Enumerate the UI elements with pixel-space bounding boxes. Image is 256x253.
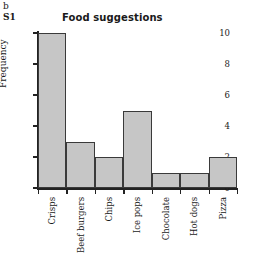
x-label-group: CrispsBeef burgersChipsIce popsChocolate… (38, 195, 237, 251)
bar-cell (123, 33, 151, 188)
y-axis-title: Frequency (0, 39, 8, 88)
bar[interactable] (95, 157, 123, 188)
y-tick-mark (33, 156, 37, 158)
x-tick-mark (123, 189, 124, 194)
x-tick-mark (95, 189, 96, 194)
x-tick-label: Chips (105, 197, 114, 222)
bar[interactable] (38, 33, 66, 188)
bar-cell (180, 33, 208, 188)
x-label-cell: Hot dogs (180, 195, 208, 251)
bar[interactable] (123, 111, 151, 189)
bar-cell (95, 33, 123, 188)
x-tick-label: Crisps (48, 197, 57, 224)
x-tick-label: Pizza (218, 197, 227, 219)
x-label-cell: Ice pops (123, 195, 151, 251)
chart-title: Food suggestions (62, 12, 163, 24)
x-label-cell: Crisps (38, 195, 66, 251)
y-tick-mark (33, 32, 37, 34)
bar-cell (38, 33, 66, 188)
bar[interactable] (66, 142, 94, 189)
panel-letter: b (3, 1, 9, 11)
x-tick-label: Beef burgers (76, 197, 85, 253)
x-label-cell: Chips (95, 195, 123, 251)
x-tick-mark (180, 189, 181, 194)
x-label-cell: Chocolate (152, 195, 180, 251)
y-tick-mark (33, 63, 37, 65)
x-tick-mark (38, 189, 39, 194)
bar[interactable] (180, 173, 208, 189)
y-tick-mark (33, 125, 37, 127)
x-tick-label: Chocolate (161, 197, 170, 240)
x-label-cell: Pizza (209, 195, 237, 251)
x-tick-label: Hot dogs (190, 197, 199, 236)
y-tick-mark (33, 187, 37, 189)
x-tick-mark (152, 189, 153, 194)
x-tick-group (38, 189, 237, 194)
bar-cell (66, 33, 94, 188)
x-tick-mark (209, 189, 210, 194)
x-tick-mark (66, 189, 67, 194)
bar-cell (152, 33, 180, 188)
bar[interactable] (152, 173, 180, 189)
y-tick-mark (33, 94, 37, 96)
bar[interactable] (209, 157, 237, 188)
series-label: S1 (3, 12, 16, 22)
x-tick-mark (237, 189, 238, 194)
x-label-cell: Beef burgers (66, 195, 94, 251)
x-tick-label: Ice pops (133, 197, 142, 233)
bar-cell (209, 33, 237, 188)
bar-group (38, 33, 237, 188)
